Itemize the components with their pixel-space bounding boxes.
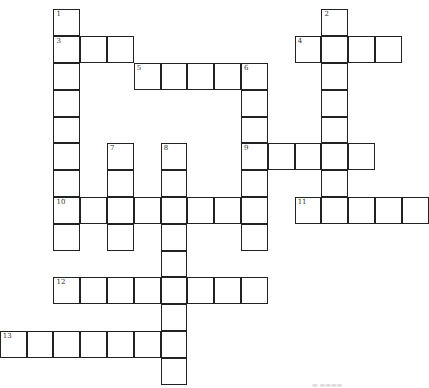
- crossword-cell[interactable]: [27, 331, 54, 358]
- crossword-cell[interactable]: 2: [321, 9, 348, 36]
- crossword-cell[interactable]: 9: [241, 143, 268, 170]
- crossword-cell[interactable]: [161, 251, 188, 278]
- crossword-cell[interactable]: [161, 277, 188, 304]
- crossword-cell[interactable]: 1: [53, 9, 80, 36]
- crossword-cell[interactable]: [53, 117, 80, 144]
- crossword-cell[interactable]: [321, 170, 348, 197]
- crossword-cell[interactable]: 3: [53, 36, 80, 63]
- crossword-cell[interactable]: [161, 304, 188, 331]
- crossword-cell[interactable]: [241, 117, 268, 144]
- crossword-cell[interactable]: 12: [53, 277, 80, 304]
- crossword-cell[interactable]: [321, 197, 348, 224]
- crossword-cell[interactable]: [241, 90, 268, 117]
- crossword-cell[interactable]: [241, 224, 268, 251]
- crossword-cell[interactable]: [241, 197, 268, 224]
- crossword-cell[interactable]: [187, 277, 214, 304]
- crossword-cell[interactable]: [214, 277, 241, 304]
- crossword-cell[interactable]: [348, 143, 375, 170]
- crossword-cell[interactable]: [187, 197, 214, 224]
- crossword-cell[interactable]: 5: [134, 63, 161, 90]
- crossword-cell[interactable]: [214, 197, 241, 224]
- crossword-cell[interactable]: 13: [0, 331, 27, 358]
- crossword-cell[interactable]: 8: [161, 143, 188, 170]
- crossword-cell[interactable]: [107, 331, 134, 358]
- clue-number: 5: [137, 65, 141, 72]
- crossword-cell[interactable]: [107, 36, 134, 63]
- watermark: ▬ ▬▬▬▬: [312, 381, 342, 388]
- crossword-cell[interactable]: [80, 277, 107, 304]
- crossword-cell[interactable]: 6: [241, 63, 268, 90]
- crossword-cell[interactable]: [53, 90, 80, 117]
- crossword-cell[interactable]: [161, 224, 188, 251]
- crossword-cell[interactable]: [375, 36, 402, 63]
- clue-number: 12: [56, 279, 65, 286]
- crossword-cell[interactable]: [107, 224, 134, 251]
- crossword-cell[interactable]: [161, 331, 188, 358]
- crossword-cell[interactable]: [53, 224, 80, 251]
- crossword-cell[interactable]: [321, 36, 348, 63]
- clue-number: 3: [56, 38, 60, 45]
- crossword-cell[interactable]: [134, 331, 161, 358]
- crossword-cell[interactable]: [161, 197, 188, 224]
- crossword-cell[interactable]: [241, 170, 268, 197]
- crossword-cell[interactable]: [348, 36, 375, 63]
- crossword-cell[interactable]: [134, 197, 161, 224]
- crossword-cell[interactable]: [107, 197, 134, 224]
- clue-number: 1: [56, 11, 60, 18]
- clue-number: 7: [110, 145, 114, 152]
- clue-number: 9: [244, 145, 248, 152]
- crossword-cell[interactable]: [161, 63, 188, 90]
- clue-number: 10: [56, 199, 65, 206]
- crossword-cell[interactable]: 4: [295, 36, 322, 63]
- crossword-cell[interactable]: 10: [53, 197, 80, 224]
- crossword-cell[interactable]: [321, 90, 348, 117]
- crossword-cell[interactable]: [80, 197, 107, 224]
- clue-number: 8: [164, 145, 168, 152]
- crossword-cell[interactable]: [53, 63, 80, 90]
- crossword-cell[interactable]: [53, 331, 80, 358]
- clue-number: 4: [298, 38, 302, 45]
- crossword-cell[interactable]: [80, 36, 107, 63]
- clue-number: 2: [324, 11, 328, 18]
- crossword-cell[interactable]: [375, 197, 402, 224]
- clue-number: 6: [244, 65, 248, 72]
- crossword-cell[interactable]: 11: [295, 197, 322, 224]
- crossword-cell[interactable]: [321, 143, 348, 170]
- crossword-cell[interactable]: [402, 197, 429, 224]
- clue-number: 11: [298, 199, 307, 206]
- crossword-cell[interactable]: [107, 277, 134, 304]
- crossword-cell[interactable]: 7: [107, 143, 134, 170]
- crossword-cell[interactable]: [295, 143, 322, 170]
- crossword-cell[interactable]: [241, 277, 268, 304]
- crossword-cell[interactable]: [321, 117, 348, 144]
- crossword-cell[interactable]: [53, 143, 80, 170]
- crossword-cell[interactable]: [53, 170, 80, 197]
- crossword-cell[interactable]: [187, 63, 214, 90]
- clue-number: 13: [3, 333, 12, 340]
- crossword-cell[interactable]: [161, 170, 188, 197]
- crossword-cell[interactable]: [161, 358, 188, 385]
- crossword-cell[interactable]: [348, 197, 375, 224]
- crossword-cell[interactable]: [268, 143, 295, 170]
- crossword-cell[interactable]: [214, 63, 241, 90]
- crossword-cell[interactable]: [134, 277, 161, 304]
- crossword-cell[interactable]: [321, 63, 348, 90]
- crossword-cell[interactable]: [107, 170, 134, 197]
- crossword-cell[interactable]: [80, 331, 107, 358]
